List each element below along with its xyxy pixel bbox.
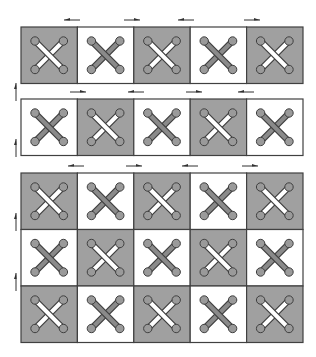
joint-circle <box>87 37 95 45</box>
joint-circle <box>256 239 264 247</box>
joint-circle <box>285 296 293 304</box>
grid-cell <box>77 173 133 230</box>
joint-circle <box>59 324 67 332</box>
joint-circle <box>172 268 180 276</box>
direction-arrow-right <box>186 90 202 93</box>
joint-circle <box>31 324 39 332</box>
joint-circle <box>172 137 180 145</box>
joint-circle <box>144 109 152 117</box>
grid-cell <box>247 173 303 230</box>
joint-circle <box>59 109 67 117</box>
grid-cell <box>134 286 190 343</box>
joint-circle <box>87 137 95 145</box>
joint-circle <box>285 65 293 73</box>
joint-circle <box>200 37 208 45</box>
joint-circle <box>31 296 39 304</box>
joint-circle <box>116 324 124 332</box>
direction-arrow-right <box>124 18 140 21</box>
joint-circle <box>200 65 208 73</box>
joint-circle <box>87 183 95 191</box>
joint-circle <box>59 239 67 247</box>
joint-circle <box>285 324 293 332</box>
grid-cell <box>21 27 77 84</box>
joint-circle <box>116 296 124 304</box>
joint-circle <box>87 324 95 332</box>
grid-cell <box>190 173 246 230</box>
direction-arrow-right <box>70 90 86 93</box>
joint-circle <box>256 137 264 145</box>
grid-cell <box>77 99 133 156</box>
direction-arrow-up <box>14 83 17 101</box>
joint-circle <box>228 109 236 117</box>
direction-arrow-up <box>14 213 17 231</box>
joint-circle <box>172 109 180 117</box>
joint-circle <box>256 183 264 191</box>
joint-circle <box>31 109 39 117</box>
joint-circle <box>200 109 208 117</box>
direction-arrow-right <box>126 164 142 167</box>
grid-cell <box>190 230 246 287</box>
joint-circle <box>172 211 180 219</box>
grid-cell <box>190 286 246 343</box>
joint-circle <box>285 239 293 247</box>
joint-circle <box>172 239 180 247</box>
grid-cell <box>190 99 246 156</box>
joint-circle <box>87 268 95 276</box>
grid-cell <box>190 27 246 84</box>
joint-circle <box>256 211 264 219</box>
joint-circle <box>116 239 124 247</box>
joint-circle <box>31 65 39 73</box>
joint-circle <box>285 37 293 45</box>
joint-circle <box>144 183 152 191</box>
joint-circle <box>59 211 67 219</box>
grid-cell <box>21 99 77 156</box>
joint-circle <box>200 296 208 304</box>
joint-circle <box>200 324 208 332</box>
joint-circle <box>116 183 124 191</box>
joint-circle <box>144 324 152 332</box>
joint-circle <box>31 183 39 191</box>
joint-circle <box>200 268 208 276</box>
joint-circle <box>200 211 208 219</box>
grid-cell <box>134 27 190 84</box>
joint-circle <box>87 211 95 219</box>
joint-circle <box>31 37 39 45</box>
grid-cell <box>134 173 190 230</box>
joint-circle <box>144 211 152 219</box>
joint-circle <box>256 296 264 304</box>
grid-cell <box>21 230 77 287</box>
joint-circle <box>87 109 95 117</box>
joint-circle <box>116 137 124 145</box>
grid-cell <box>77 286 133 343</box>
joint-circle <box>59 183 67 191</box>
joint-circle <box>200 137 208 145</box>
joint-circle <box>144 65 152 73</box>
joint-circle <box>144 239 152 247</box>
joint-circle <box>144 137 152 145</box>
direction-arrow-left <box>68 164 84 167</box>
direction-arrow-left <box>182 164 198 167</box>
joint-circle <box>87 239 95 247</box>
direction-arrow-right <box>242 164 258 167</box>
joint-circle <box>116 109 124 117</box>
joint-circle <box>116 65 124 73</box>
grid-cell <box>247 27 303 84</box>
direction-arrow-left <box>238 90 254 93</box>
joint-circle <box>172 65 180 73</box>
joint-circle <box>31 268 39 276</box>
direction-arrow-right <box>244 18 260 21</box>
joint-circle <box>256 324 264 332</box>
joint-circle <box>228 211 236 219</box>
joint-circle <box>200 183 208 191</box>
joint-circle <box>228 65 236 73</box>
direction-arrow-left <box>178 18 194 21</box>
direction-arrow-left <box>64 18 80 21</box>
grid-cell <box>134 99 190 156</box>
direction-arrow-left <box>128 90 144 93</box>
grid-cell <box>134 230 190 287</box>
joint-circle <box>228 183 236 191</box>
joint-circle <box>285 268 293 276</box>
joint-circle <box>116 211 124 219</box>
direction-arrow-up <box>14 139 17 157</box>
joint-circle <box>144 37 152 45</box>
